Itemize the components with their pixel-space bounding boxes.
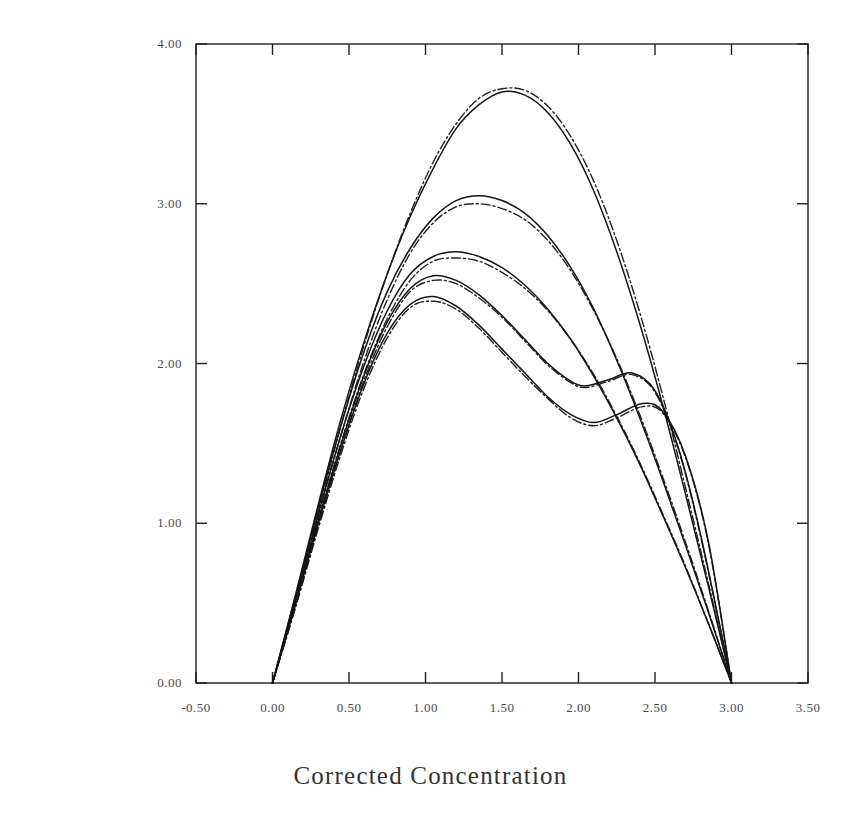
data-curves xyxy=(273,88,732,683)
y-tick-label: 0.00 xyxy=(112,675,182,691)
y-tick-label: 1.00 xyxy=(112,515,182,531)
curve-1-data xyxy=(273,91,732,683)
y-tick-label: 2.00 xyxy=(112,356,182,372)
curve-5-fit xyxy=(273,301,732,683)
figure-container: 0.001.002.003.004.00 -0.500.000.501.001.… xyxy=(0,0,861,830)
curve-1-fit xyxy=(273,88,732,683)
x-tick-label: 2.00 xyxy=(566,700,591,716)
y-tick-label: 4.00 xyxy=(112,36,182,52)
curve-5-data xyxy=(273,296,732,683)
x-tick-label: 2.50 xyxy=(643,700,668,716)
x-tick-label: -0.50 xyxy=(181,700,211,716)
x-tick-label: 1.50 xyxy=(490,700,515,716)
curve-3-fit xyxy=(273,258,732,683)
x-tick-label: 3.50 xyxy=(796,700,821,716)
x-tick-label: 1.00 xyxy=(413,700,438,716)
x-tick-label: 0.50 xyxy=(337,700,362,716)
x-axis-title: Corrected Concentration xyxy=(0,762,861,790)
x-tick-label: 0.00 xyxy=(260,700,285,716)
curve-2-data xyxy=(273,196,732,683)
y-tick-label: 3.00 xyxy=(112,196,182,212)
x-tick-label: 3.00 xyxy=(719,700,744,716)
